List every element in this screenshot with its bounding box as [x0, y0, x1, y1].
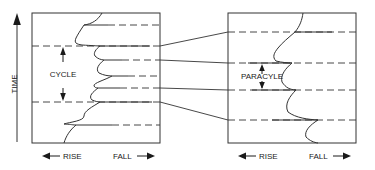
curve-trace: [94, 46, 104, 60]
curve-trace: [75, 25, 100, 46]
paracycle-panel-axis-labels: RISE FALL: [238, 152, 351, 161]
panel-connectors: [160, 32, 228, 120]
cycle-panel: CYCLE RISE FALL: [32, 13, 160, 161]
rise-label: RISE: [63, 152, 82, 161]
connector-line: [160, 88, 228, 90]
time-axis-arrow-icon: [13, 13, 21, 25]
cycle-measure: CYCLE: [50, 47, 77, 101]
time-axis: TIME: [10, 13, 21, 142]
fall-label: FALL: [309, 152, 328, 161]
curve-trace: [94, 76, 112, 88]
curve-trace: [64, 102, 100, 125]
connector-line: [160, 102, 228, 120]
curve-trace: [97, 60, 112, 76]
curve-trace: [64, 125, 76, 143]
cycle-measure-up-arrow-icon: [60, 47, 66, 55]
connector-line: [160, 60, 228, 63]
curve-trace: [91, 88, 100, 102]
fall-arrow-icon: [343, 153, 351, 160]
paracycle-measure-down-arrow-icon: [259, 82, 265, 89]
rise-arrow-icon: [42, 153, 50, 160]
curve-trace: [306, 120, 318, 143]
paracycle-measure: PARACYLE: [241, 64, 283, 89]
fall-arrow-icon: [147, 153, 155, 160]
paracycle-measure-up-arrow-icon: [259, 64, 265, 71]
connector-line: [160, 32, 228, 46]
figure-root: TIME: [0, 0, 375, 170]
cycle-label: CYCLE: [50, 70, 77, 79]
cycle-panel-dashed-levels: [108, 25, 160, 125]
curve-trace: [295, 13, 303, 32]
fall-label: FALL: [113, 152, 132, 161]
paracycle-label: PARACYLE: [241, 72, 283, 81]
curve-trace: [282, 63, 296, 90]
time-axis-label: TIME: [10, 74, 19, 93]
cycle-panel-axis-labels: RISE FALL: [42, 152, 155, 161]
paracycle-panel: PARACYLE RISE FALL: [228, 13, 356, 161]
curve-trace: [84, 13, 102, 25]
cycle-measure-down-arrow-icon: [60, 93, 66, 101]
rise-arrow-icon: [238, 153, 246, 160]
cycle-diagram: TIME: [0, 0, 375, 170]
rise-label: RISE: [259, 152, 278, 161]
curve-trace: [287, 90, 318, 120]
curve-trace: [274, 32, 295, 63]
